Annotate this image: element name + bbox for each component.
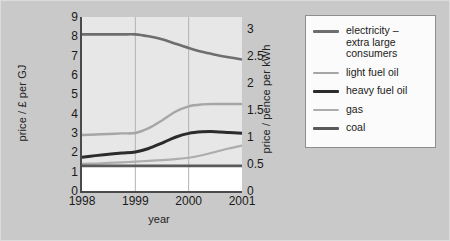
legend-swatch-icon	[313, 109, 339, 111]
y-tick-right: 3	[247, 22, 254, 36]
y-axis-left-title: price / £ per GJ	[16, 38, 28, 168]
y-tick-right: 1	[247, 130, 254, 144]
legend-swatch-icon	[313, 30, 339, 33]
plot-area: 012345678900.511.522.531998199920002001	[80, 17, 242, 193]
legend-item[interactable]: electricity – extra large consumers	[313, 25, 435, 60]
y-tick-left: 3	[71, 126, 78, 140]
x-tick: 2000	[175, 194, 202, 208]
legend-swatch-icon	[313, 90, 339, 93]
x-tick: 2001	[229, 194, 256, 208]
legend-item[interactable]: heavy fuel oil	[313, 85, 435, 97]
y-tick-left: 6	[71, 68, 78, 82]
below-coal-band	[82, 166, 242, 191]
legend-item-label: electricity – extra large consumers	[346, 25, 399, 60]
y-tick-left: 8	[71, 29, 78, 43]
y-tick-left: 5	[71, 87, 78, 101]
legend-item-label: gas	[346, 104, 363, 116]
x-tick: 1999	[122, 194, 149, 208]
legend-item[interactable]: gas	[313, 104, 435, 116]
y-tick-left: 7	[71, 49, 78, 63]
y-tick-left: 4	[71, 107, 78, 121]
legend-item[interactable]: light fuel oil	[313, 67, 435, 79]
series-canvas	[82, 17, 242, 191]
series-line-heavy-fuel-oil	[82, 132, 242, 158]
legend-item-label: heavy fuel oil	[346, 85, 407, 97]
x-axis-title: year	[79, 213, 239, 225]
y-tick-right: 0.5	[247, 157, 264, 171]
legend-item[interactable]: coal	[313, 122, 435, 134]
series-line-electricity-extra-large-consumers	[82, 34, 242, 59]
legend-swatch-icon	[313, 127, 339, 130]
chart-figure: price / £ per GJ price / pence per kWh y…	[0, 0, 450, 241]
y-tick-right: 1.5	[247, 103, 264, 117]
chart-legend: electricity – extra large consumerslight…	[305, 15, 436, 148]
y-tick-right: 2	[247, 76, 254, 90]
legend-swatch-icon	[313, 72, 339, 74]
y-tick-left: 9	[71, 10, 78, 24]
y-tick-left: 1	[71, 165, 78, 179]
legend-item-label: coal	[346, 122, 365, 134]
x-tick: 1998	[69, 194, 96, 208]
y-tick-left: 2	[71, 145, 78, 159]
legend-item-label: light fuel oil	[346, 67, 399, 79]
plot-block: price / £ per GJ price / pence per kWh y…	[1, 1, 291, 241]
y-tick-right: 2.5	[247, 49, 264, 63]
